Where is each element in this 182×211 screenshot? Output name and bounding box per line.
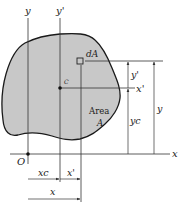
area-label-line2: A (96, 118, 103, 128)
x-prime-axis-label: x' (136, 83, 144, 94)
dim-xc-label: xc (38, 167, 49, 178)
x-axis-label: x (172, 148, 178, 159)
dim-yc-label: yc (129, 115, 141, 126)
dim-x-prime-label: x' (67, 167, 75, 178)
area-label-line1: Area (88, 106, 109, 116)
origin-point (26, 152, 30, 156)
origin-label: O (17, 156, 25, 167)
element-label: dA (86, 49, 99, 59)
centroid-point (58, 86, 62, 90)
y-axis-label: y (24, 5, 31, 16)
dim-y-label: y (156, 103, 163, 114)
centroid-diagram: y y' x x' O C dA Area A y' yc y xc x' x (0, 0, 182, 211)
dim-y-prime-label: y' (130, 69, 139, 80)
centroid-label: C (64, 78, 69, 85)
dim-x-label: x (50, 186, 56, 197)
y-prime-axis-label: y' (55, 5, 64, 16)
